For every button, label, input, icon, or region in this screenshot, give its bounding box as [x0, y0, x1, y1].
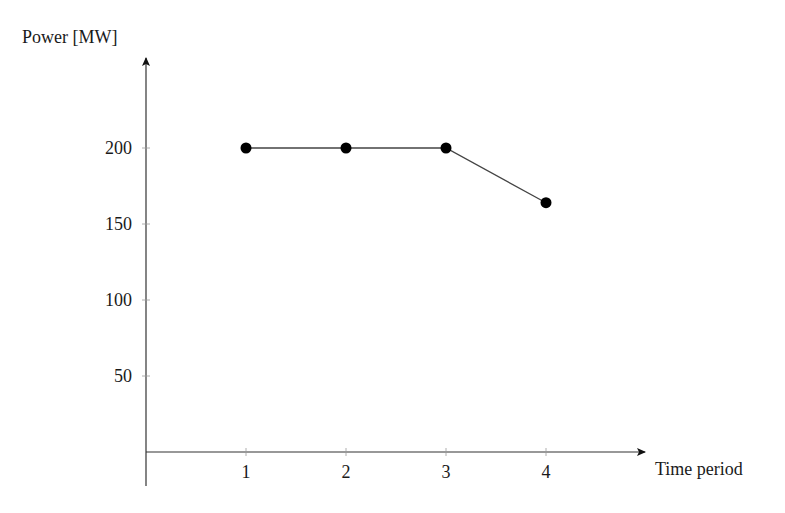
x-axis-label: Time period	[655, 459, 743, 479]
y-axis-label: Power [MW]	[22, 27, 117, 47]
y-ticks: 50100150200	[105, 138, 150, 386]
chart: Power [MW] Time period 50100150200 1234	[0, 0, 785, 513]
y-axis-title: Power [MW]	[22, 27, 117, 47]
data-point-marker	[541, 197, 552, 208]
x-tick-label: 2	[342, 462, 351, 482]
series-line	[246, 148, 546, 203]
x-ticks: 1234	[242, 448, 551, 482]
line-chart-svg: Power [MW] Time period 50100150200 1234	[0, 0, 785, 513]
y-tick-label: 100	[105, 290, 132, 310]
y-tick-label: 150	[105, 214, 132, 234]
data-point-marker	[441, 143, 452, 154]
data-point-marker	[241, 143, 252, 154]
data-series	[241, 143, 552, 209]
data-point-marker	[341, 143, 352, 154]
y-tick-label: 50	[114, 366, 132, 386]
x-axis-title: Time period	[655, 459, 743, 479]
x-tick-label: 3	[442, 462, 451, 482]
y-tick-label: 200	[105, 138, 132, 158]
x-tick-label: 1	[242, 462, 251, 482]
x-tick-label: 4	[542, 462, 551, 482]
